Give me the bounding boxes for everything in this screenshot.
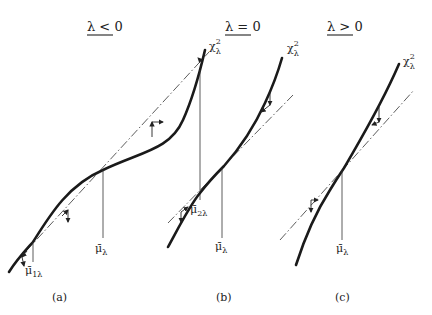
panel-b-title: λ = 0 xyxy=(225,19,261,34)
panel-c-title: λ > 0 xyxy=(327,19,363,34)
panel-a-title: λ < 0 xyxy=(87,19,123,34)
panel-a-mu-1lambda-label: μ̄1λ xyxy=(25,264,42,279)
panel-a-reference-line xyxy=(16,52,209,262)
panel-a-chi2-label: χ2λ xyxy=(209,37,221,56)
panel-b-caption: (b) xyxy=(216,291,232,304)
panel-c-chi2-label: χ2λ xyxy=(403,52,415,71)
figure: λ < 0 χ2λ μ̄λ μ̄1λ μ̄2λ (a) λ = 0 xyxy=(0,0,432,315)
panel-c-mu-lambda-label: μ̄λ xyxy=(336,242,348,257)
panel-c: λ > 0 χ2λ μ̄λ (c) xyxy=(280,19,415,304)
panel-a: λ < 0 χ2λ μ̄λ μ̄1λ μ̄2λ (a) xyxy=(9,19,221,304)
panel-b-chi2-curve xyxy=(168,58,282,247)
panel-a-caption: (a) xyxy=(52,291,67,304)
panel-c-caption: (c) xyxy=(335,291,350,304)
panel-b: λ = 0 χ2λ μ̄λ (b) xyxy=(168,19,299,304)
panel-b-chi2-label: χ2λ xyxy=(287,39,299,58)
panel-c-chi2-curve xyxy=(296,64,399,265)
panel-a-mu-lambda-label: μ̄λ xyxy=(95,242,107,257)
panel-a-chi2-curve xyxy=(9,50,205,272)
panel-b-mu-lambda-label: μ̄λ xyxy=(215,240,227,255)
